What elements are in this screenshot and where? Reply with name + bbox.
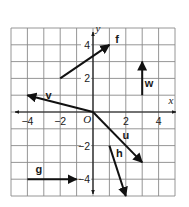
origin-label: O [83, 113, 91, 125]
vector-g: g [27, 163, 76, 179]
y-axis-label: y [94, 22, 100, 34]
vector-h: h [109, 146, 125, 196]
x-tick-label: −4 [21, 115, 33, 127]
y-tick-label: −2 [78, 140, 90, 152]
vector-g-label: g [36, 163, 43, 175]
x-tick-label: 4 [156, 115, 162, 127]
y-tick-label: −4 [78, 173, 90, 185]
vector-h-label: h [116, 147, 123, 159]
y-tick-label: 4 [84, 39, 90, 51]
vector-f-label: f [115, 33, 119, 45]
x-tick-label: −2 [54, 115, 66, 127]
vector-u-label: u [123, 129, 130, 141]
vector-diagram: xyO −4−22442−2−4 fwvuhg [0, 0, 189, 207]
x-tick-label: 2 [123, 115, 129, 127]
x-axis-label: x [167, 94, 173, 106]
vector-w-label: w [144, 77, 154, 89]
y-tick-label: 2 [84, 72, 90, 84]
vector-w: w [142, 62, 153, 96]
vector-v-label: v [45, 89, 52, 101]
